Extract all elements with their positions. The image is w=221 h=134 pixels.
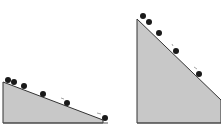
ball xyxy=(196,71,202,77)
steep-ramp xyxy=(137,19,221,123)
inclined-planes-diagram xyxy=(0,0,221,134)
ball xyxy=(40,91,46,97)
ball xyxy=(5,77,11,83)
ball xyxy=(140,13,146,19)
steep-ramp-group xyxy=(137,13,221,123)
ball xyxy=(146,19,152,25)
ball xyxy=(102,115,108,121)
ball xyxy=(173,48,179,54)
ball xyxy=(156,30,162,36)
shallow-ramp xyxy=(3,82,103,123)
ball xyxy=(64,100,70,106)
ball xyxy=(21,83,27,89)
ball xyxy=(11,79,17,85)
shallow-ramp-group xyxy=(3,77,108,123)
